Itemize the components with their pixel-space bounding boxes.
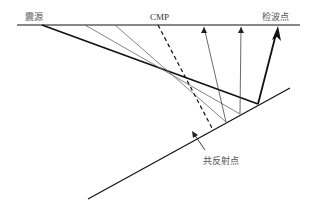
- down-ray-near: [115, 25, 226, 122]
- label-common-reflection-point: 共反射点: [203, 155, 239, 166]
- arrow-head-icon: [238, 27, 244, 33]
- up-ray-mid: [240, 27, 241, 114]
- cmp-dashed-line: [158, 25, 213, 130]
- label-receiver: 检波点: [262, 11, 289, 22]
- label-source: 震源: [25, 12, 43, 22]
- down-ray-mid: [85, 25, 240, 114]
- reflector-line: [88, 88, 290, 199]
- up-ray-far: [258, 34, 276, 104]
- label-cmp: CMP: [150, 12, 169, 22]
- up-ray-near: [204, 27, 226, 122]
- down-ray-far: [42, 25, 258, 104]
- arrow-head-icon: [201, 27, 207, 33]
- cmp-diagram: 震源 CMP 检波点 共反射点: [0, 0, 310, 213]
- arrow-head-icon: [272, 26, 281, 41]
- arrow-head-icon: [192, 131, 198, 138]
